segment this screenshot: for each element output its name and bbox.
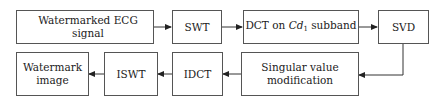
node-label: DCT on Cd1 subband [245, 19, 356, 36]
node-swt: SWT [172, 10, 222, 44]
node-idct: IDCT [172, 52, 223, 96]
dct-suffix: subband [308, 19, 357, 31]
node-svd: SVD [378, 10, 429, 44]
node-watermark-image: Watermark image [16, 52, 89, 96]
node-label: ISWT [116, 68, 145, 81]
node-label-line2: image [36, 74, 69, 87]
node-label: IDCT [184, 68, 212, 81]
node-iswt: ISWT [104, 52, 158, 96]
node-label-line1: Singular value [261, 61, 338, 74]
node-label: SVD [392, 21, 415, 34]
node-label-line2: modification [267, 74, 333, 87]
dct-variable: Cd [289, 19, 304, 31]
node-label: SWT [185, 21, 210, 34]
node-watermarked-ecg-signal: Watermarked ECG signal [16, 10, 154, 44]
dct-prefix: DCT on [245, 19, 288, 31]
arrow-svd-to-svmod [359, 43, 403, 75]
node-singular-value-modification: Singular value modification [241, 52, 359, 96]
node-label-line1: Watermark [23, 61, 82, 74]
node-label: Watermarked ECG signal [23, 14, 153, 40]
node-dct-cd1-subband: DCT on Cd1 subband [243, 10, 359, 44]
